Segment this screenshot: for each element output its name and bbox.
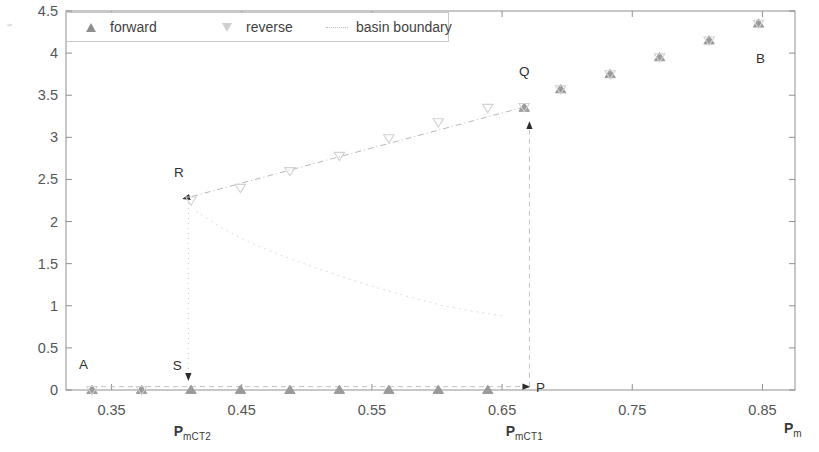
y-tick-label: 2 [8, 214, 58, 230]
legend: forwardreversebasin boundary [66, 12, 449, 42]
y-tick-label: 2.5 [8, 171, 58, 187]
point-label-p: P [536, 380, 545, 395]
y-tick-label: 3.5 [8, 87, 58, 103]
marker-reverse [384, 135, 394, 143]
x-tick-label: 0.75 [618, 402, 646, 418]
basin-boundary-line-icon [324, 27, 350, 28]
x-axis-title-main: P [784, 420, 793, 436]
x-tick-label: 0.65 [488, 402, 516, 418]
x-axis-annotation-mct1-subscript: mCT1 [515, 431, 543, 442]
marker-reverse [186, 197, 196, 205]
y-tick-label: 1 [8, 298, 58, 314]
point-label-a: A [79, 357, 88, 372]
hysteresis-path-upper-branch-trace [183, 107, 524, 199]
y-tick-label: 4 [8, 45, 58, 61]
series-forward [87, 19, 764, 394]
x-axis-annotation-mct1: PmCT1 [506, 423, 543, 442]
legend-entry-reverse: reverse [214, 12, 293, 42]
point-label-s: S [173, 358, 182, 373]
bifurcation-figure: ⌁ 00.511.522.533.544.5 0.350.450.550.650… [0, 0, 819, 452]
x-axis-title-subscript: m [793, 428, 802, 439]
legend-entry-basin-boundary: basin boundary [324, 12, 452, 42]
forward-marker-icon [78, 23, 104, 32]
legend-label: forward [110, 19, 157, 35]
x-axis-annotation-mct1-main: P [506, 423, 515, 439]
legend-label: basin boundary [356, 19, 452, 35]
reverse-marker-icon [214, 23, 240, 32]
basin-boundary-curve [196, 211, 502, 315]
y-tick-label: 4.5 [8, 3, 58, 19]
x-axis-annotation-mct2-main: P [174, 423, 183, 439]
plot-canvas [0, 0, 819, 452]
plot-frame [66, 11, 795, 390]
y-tick-label: 3 [8, 129, 58, 145]
marker-reverse [433, 119, 443, 127]
x-tick-label: 0.35 [97, 402, 125, 418]
y-tick-label: 1.5 [8, 256, 58, 272]
y-tick-label: 0 [8, 382, 58, 398]
legend-label: reverse [246, 19, 293, 35]
x-tick-label: 0.55 [358, 402, 386, 418]
x-tick-label: 0.85 [748, 402, 776, 418]
x-tick-label: 0.45 [228, 402, 256, 418]
x-axis-title: Pm [784, 420, 802, 439]
marker-reverse [235, 184, 245, 192]
x-axis-annotation-mct2: PmCT2 [174, 423, 211, 442]
dotted-line-icon [326, 27, 348, 28]
point-label-r: R [174, 165, 184, 180]
point-label-q: Q [519, 64, 530, 79]
point-label-b: B [756, 51, 765, 66]
marker-forward [519, 103, 529, 111]
triangle-up-icon [86, 23, 96, 32]
legend-entry-forward: forward [78, 12, 157, 42]
y-tick-label: 0.5 [8, 340, 58, 356]
marker-reverse [483, 104, 493, 112]
triangle-down-icon [222, 23, 232, 32]
x-axis-annotation-mct2-subscript: mCT2 [183, 431, 211, 442]
